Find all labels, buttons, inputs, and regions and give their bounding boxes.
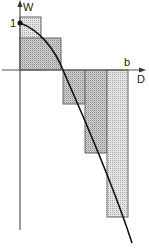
y-tick-label: 1 bbox=[10, 17, 16, 29]
x-axis-label: D bbox=[137, 73, 145, 85]
step-rect-5 bbox=[107, 70, 128, 217]
x-axis-arrow-icon bbox=[139, 68, 146, 73]
y-axis-arrow-icon bbox=[18, 0, 23, 7]
x-tick-label: b bbox=[124, 56, 130, 68]
diagram-canvas: W 1 b D bbox=[0, 0, 149, 249]
step-rect-4 bbox=[85, 70, 107, 153]
step-rect-3 bbox=[63, 70, 85, 104]
y-axis-label: W bbox=[23, 1, 34, 13]
start-point bbox=[18, 21, 23, 26]
